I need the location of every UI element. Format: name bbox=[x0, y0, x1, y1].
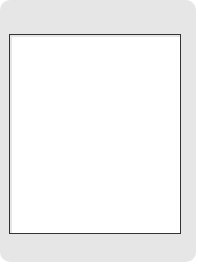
board-grid bbox=[0, 0, 198, 262]
